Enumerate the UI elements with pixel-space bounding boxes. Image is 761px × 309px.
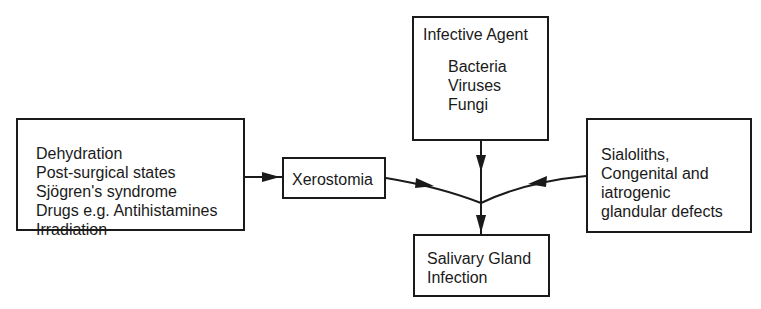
arrow-xerostomia-to-junction bbox=[386, 178, 481, 203]
local-factor-line: Congenital and bbox=[601, 164, 750, 183]
local-factor-line: Sialoliths, bbox=[601, 145, 750, 164]
arrow-causes-to-xerostomia bbox=[245, 172, 282, 182]
infective-agent-title: Infective Agent bbox=[423, 25, 547, 44]
agent-item: Fungi bbox=[448, 95, 547, 114]
outcome-line: Salivary Gland bbox=[427, 249, 548, 268]
cause-item: Irradiation bbox=[36, 220, 243, 239]
agent-item: Bacteria bbox=[448, 57, 547, 76]
local-factor-line: glandular defects bbox=[601, 202, 750, 221]
cause-item: Post-surgical states bbox=[36, 163, 243, 182]
xerostomia-box: Xerostomia bbox=[282, 157, 386, 199]
agent-item: Viruses bbox=[448, 76, 547, 95]
infective-agent-list: Bacteria Viruses Fungi bbox=[423, 57, 547, 114]
cause-item: Drugs e.g. Antihistamines bbox=[36, 201, 243, 220]
arrow-local-to-junction bbox=[481, 176, 586, 203]
arrow-agent-to-junction bbox=[476, 141, 486, 234]
cause-item: Dehydration bbox=[36, 144, 243, 163]
local-factors-box: Sialoliths, Congenital and iatrogenic gl… bbox=[586, 118, 752, 233]
predisposing-causes-box: Dehydration Post-surgical states Sjögren… bbox=[16, 118, 245, 231]
infective-agent-box: Infective Agent Bacteria Viruses Fungi bbox=[412, 16, 549, 141]
salivary-gland-infection-box: Salivary Gland Infection bbox=[413, 234, 550, 297]
outcome-line: Infection bbox=[427, 268, 548, 287]
xerostomia-label: Xerostomia bbox=[292, 170, 384, 189]
cause-item: Sjögren's syndrome bbox=[36, 182, 243, 201]
local-factor-line: iatrogenic bbox=[601, 183, 750, 202]
